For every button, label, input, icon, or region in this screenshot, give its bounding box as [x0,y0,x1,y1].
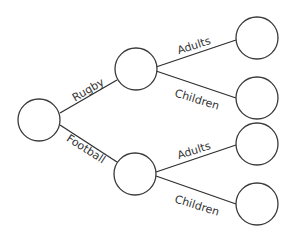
node-rugby [115,48,157,90]
node-rugby-adults [236,17,278,59]
node-football-adults [236,123,278,165]
node-football [114,153,156,195]
node-root [18,99,60,141]
tree-diagram: Rugby Football Adults Children Adults Ch… [0,0,293,235]
edge-label-football: Football [64,132,108,167]
node-football-children [236,183,278,225]
edge-label-rugby: Rugby [70,75,107,104]
node-rugby-children [236,77,278,119]
